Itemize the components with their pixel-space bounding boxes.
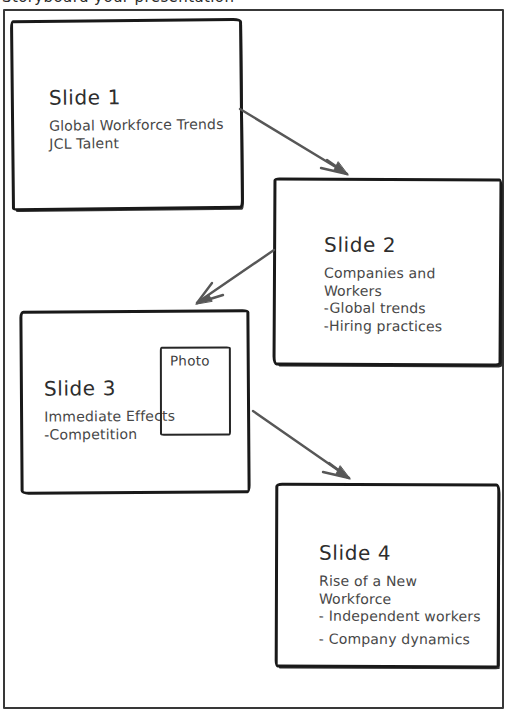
slide-4-line: Rise of a New Workforce (319, 573, 487, 609)
slide-4-line: - Independent workers (319, 608, 487, 626)
photo-placeholder-label: Photo (170, 353, 210, 369)
photo-placeholder-box[interactable]: Photo (160, 347, 231, 436)
slide-2-title: Slide 2 (324, 233, 489, 258)
slide-4-line: - Company dynamics (319, 630, 487, 648)
connector-arrow-2-to-3[interactable] (196, 250, 274, 304)
slide-2-line: Companies and Workers (324, 265, 489, 301)
slide-2-card[interactable]: Slide 2 Companies and Workers -Global tr… (273, 177, 503, 366)
slide-2-line: -Hiring practices (324, 317, 489, 335)
slide-1-line: JCL Talent (49, 133, 230, 152)
slide-1-line: Global Workforce Trends (49, 116, 230, 135)
slide-1-card[interactable]: Slide 1 Global Workforce Trends JCL Tale… (10, 18, 244, 211)
slide-4-title: Slide 4 (319, 541, 487, 566)
slide-1-title: Slide 1 (49, 84, 230, 110)
cropped-top-caption: Storyboard your presentation (2, 0, 234, 6)
connector-arrow-3-to-4[interactable] (253, 411, 350, 479)
slide-4-card[interactable]: Slide 4 Rise of a New Workforce - Indepe… (275, 483, 501, 669)
connector-arrow-1-to-2[interactable] (240, 109, 348, 175)
slide-3-card[interactable]: Slide 3 Immediate Effects -Competition P… (19, 309, 250, 495)
slide-2-line: -Global trends (324, 300, 489, 318)
